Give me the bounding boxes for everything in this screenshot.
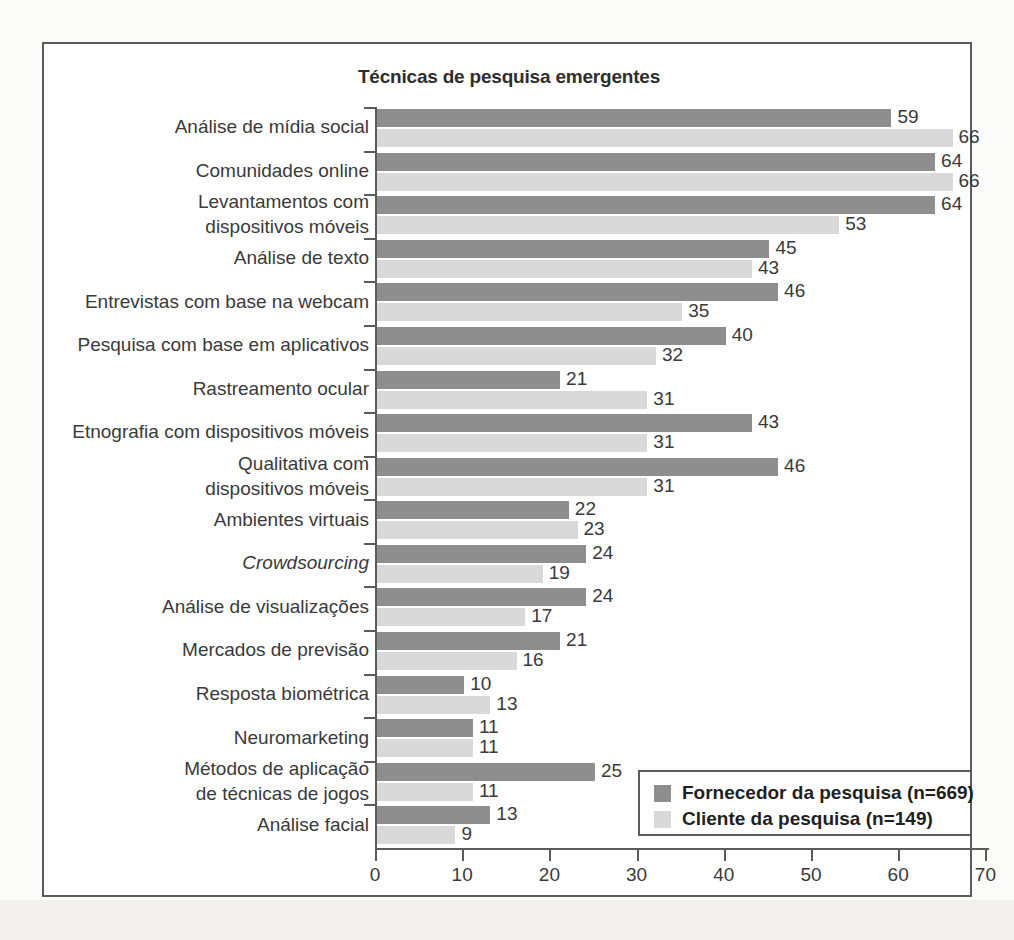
bar-supplier — [377, 806, 490, 824]
y-axis-tick — [364, 804, 375, 806]
category-label: Análise de texto — [49, 245, 369, 270]
bar-value-label: 46 — [784, 457, 805, 475]
bar-value-label: 9 — [461, 825, 472, 843]
bar-client — [377, 216, 839, 234]
bar-supplier — [377, 763, 595, 781]
bar-value-label: 31 — [653, 433, 674, 451]
plot-area: 0102030405060705966646664534543463540322… — [375, 107, 935, 848]
bar-client — [377, 652, 517, 670]
bar-value-label: 40 — [732, 326, 753, 344]
category-axis-labels: Análise de mídia socialComunidades onlin… — [44, 107, 369, 848]
bar-client — [377, 434, 647, 452]
bar-supplier — [377, 501, 569, 519]
x-axis-tick — [637, 850, 639, 861]
x-axis-tick — [811, 850, 813, 861]
bar-client — [377, 783, 473, 801]
y-axis-tick — [364, 151, 375, 153]
x-axis-tick — [462, 850, 464, 861]
bar-value-label: 11 — [479, 738, 499, 756]
x-axis-tick-label: 10 — [432, 864, 492, 886]
bar-value-label: 32 — [662, 346, 683, 364]
bar-value-label: 66 — [959, 128, 980, 146]
x-axis-tick-label: 0 — [345, 864, 405, 886]
chart-title: Técnicas de pesquisa emergentes — [44, 66, 974, 88]
y-axis-tick — [364, 456, 375, 458]
bar-client — [377, 129, 953, 147]
bar-value-label: 46 — [784, 282, 805, 300]
y-axis-tick — [364, 761, 375, 763]
bar-client — [377, 608, 525, 626]
category-label: Mercados de previsão — [49, 637, 369, 662]
y-axis-tick — [364, 194, 375, 196]
category-label: Qualitativa com dispositivos móveis — [49, 451, 369, 501]
bar-client — [377, 521, 578, 539]
x-axis-tick — [898, 850, 900, 861]
bar-supplier — [377, 283, 778, 301]
bar-client — [377, 391, 647, 409]
x-axis-tick — [549, 850, 551, 861]
bar-client — [377, 478, 647, 496]
bar-value-label: 11 — [479, 782, 499, 800]
bar-value-label: 64 — [941, 152, 962, 170]
bar-value-label: 45 — [775, 239, 796, 257]
bar-client — [377, 260, 752, 278]
legend-label: Cliente da pesquisa (n=149) — [682, 808, 933, 830]
bar-supplier — [377, 371, 560, 389]
y-axis-tick — [364, 630, 375, 632]
x-axis-tick-label: 30 — [607, 864, 667, 886]
bar-supplier — [377, 588, 586, 606]
bar-value-label: 13 — [496, 805, 517, 823]
x-axis-tick-label: 70 — [955, 864, 1014, 886]
category-label: Análise de mídia social — [49, 114, 369, 139]
bar-value-label: 31 — [653, 477, 674, 495]
x-axis-tick — [985, 850, 987, 861]
bar-supplier — [377, 545, 586, 563]
x-axis-tick-label: 40 — [694, 864, 754, 886]
bar-client — [377, 565, 543, 583]
category-label: Análise de visualizações — [49, 594, 369, 619]
y-axis-tick — [364, 281, 375, 283]
legend-swatch-client — [654, 811, 671, 828]
category-label: Resposta biométrica — [49, 681, 369, 706]
bar-value-label: 23 — [584, 520, 605, 538]
category-label: Levantamentos com dispositivos móveis — [49, 189, 369, 239]
y-axis-tick — [364, 717, 375, 719]
category-label: Entrevistas com base na webcam — [49, 289, 369, 314]
category-label: Ambientes virtuais — [49, 507, 369, 532]
y-axis-tick — [364, 238, 375, 240]
category-label: Rastreamento ocular — [49, 376, 369, 401]
bar-supplier — [377, 327, 726, 345]
x-axis-tick-label: 50 — [781, 864, 841, 886]
bar-supplier — [377, 196, 935, 214]
bar-client — [377, 739, 473, 757]
scan-artifact-strip — [0, 900, 1014, 940]
bar-client — [377, 696, 490, 714]
bar-supplier — [377, 153, 935, 171]
x-axis-tick-label: 60 — [868, 864, 928, 886]
bar-supplier — [377, 676, 464, 694]
bar-supplier — [377, 458, 778, 476]
bar-value-label: 24 — [592, 587, 613, 605]
bar-value-label: 35 — [688, 302, 709, 320]
bar-value-label: 31 — [653, 390, 674, 408]
y-axis-tick — [364, 107, 375, 109]
y-axis-tick — [364, 674, 375, 676]
category-label: Pesquisa com base em aplicativos — [49, 332, 369, 357]
x-axis-tick-label: 20 — [519, 864, 579, 886]
y-axis-tick — [364, 499, 375, 501]
bar-value-label: 11 — [479, 718, 499, 736]
bar-value-label: 43 — [758, 413, 779, 431]
legend-item: Cliente da pesquisa (n=149) — [654, 806, 933, 832]
bar-value-label: 53 — [845, 215, 866, 233]
category-label: Etnografia com dispositivos móveis — [49, 419, 369, 444]
bar-value-label: 13 — [496, 695, 517, 713]
bar-client — [377, 173, 953, 191]
chart-legend: Fornecedor da pesquisa (n=669)Cliente da… — [638, 770, 972, 836]
legend-label: Fornecedor da pesquisa (n=669) — [682, 782, 974, 804]
bar-client — [377, 826, 455, 844]
bar-value-label: 19 — [549, 564, 570, 582]
y-axis-tick — [364, 369, 375, 371]
bar-value-label: 21 — [566, 370, 587, 388]
category-label: Comunidades online — [49, 158, 369, 183]
bar-value-label: 24 — [592, 544, 613, 562]
